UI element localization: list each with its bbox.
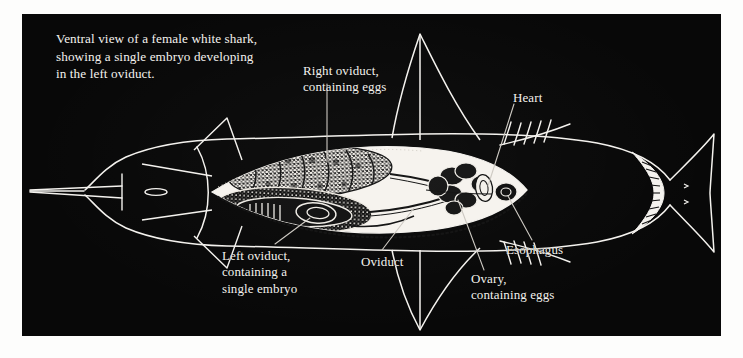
label-heart-line-1: Heart xyxy=(513,90,542,106)
lower-pectoral-fin xyxy=(392,248,480,330)
label-right-oviduct: Right oviduct, containing eggs xyxy=(303,63,443,96)
caudal-fin xyxy=(632,152,688,234)
label-heart: Heart xyxy=(513,90,542,106)
mouth xyxy=(145,189,167,196)
label-oviduct: Oviduct xyxy=(361,254,404,270)
gill-slits-upper xyxy=(500,120,570,145)
label-esophagus: Esophagus xyxy=(506,242,563,258)
esophagus xyxy=(495,183,517,201)
label-esophagus-line-1: Esophagus xyxy=(506,242,563,258)
label-left-oviduct-line-3: single embryo xyxy=(222,281,362,297)
snout xyxy=(30,174,122,210)
label-right-oviduct-line-2: containing eggs xyxy=(303,79,443,95)
label-oviduct-line-1: Oviduct xyxy=(361,254,404,270)
caption-line-2: showing a single embryo developing xyxy=(56,48,306,66)
label-right-oviduct-line-1: Right oviduct, xyxy=(303,63,443,79)
label-left-oviduct-line-1: Left oviduct, xyxy=(222,248,362,264)
illustration-panel: Ventral view of a female white shark, sh… xyxy=(22,14,721,336)
figure-page: Ventral view of a female white shark, sh… xyxy=(0,0,743,358)
caption-line-3: in the left oviduct. xyxy=(56,65,306,83)
figure-caption: Ventral view of a female white shark, sh… xyxy=(56,30,306,83)
label-ovary: Ovary, containing eggs xyxy=(471,271,601,304)
leader-esophagus xyxy=(508,196,532,240)
caption-line-1: Ventral view of a female white shark, xyxy=(56,30,306,48)
label-ovary-line-2: containing eggs xyxy=(471,287,601,303)
label-ovary-line-1: Ovary, xyxy=(471,271,601,287)
label-left-oviduct-line-2: containing a xyxy=(222,264,362,280)
label-left-oviduct: Left oviduct, containing a single embryo xyxy=(222,248,362,297)
